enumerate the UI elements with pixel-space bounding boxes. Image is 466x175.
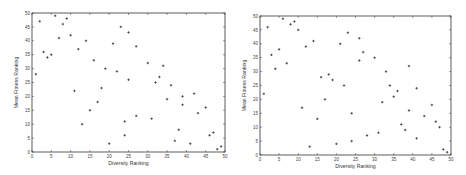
data-point: [358, 37, 360, 39]
y-tick-label: 15: [25, 108, 31, 113]
y-tick-label: 35: [25, 52, 31, 57]
data-point: [54, 15, 56, 17]
data-point: [435, 120, 437, 122]
x-tick-label: 50: [222, 154, 228, 159]
x-tick-label: 30: [372, 157, 378, 162]
x-tick-label: 25: [353, 157, 359, 162]
x-axis-title: Diversity Ranking: [108, 160, 148, 166]
y-tick-label: 20: [253, 97, 259, 102]
data-point: [39, 20, 41, 22]
data-point: [343, 84, 345, 86]
x-tick-label: 25: [126, 154, 132, 159]
data-point: [438, 126, 440, 128]
data-point: [96, 101, 98, 103]
data-point: [85, 40, 87, 42]
data-point: [58, 37, 60, 39]
data-point: [208, 134, 210, 136]
data-point: [166, 98, 168, 100]
data-point: [189, 142, 191, 144]
x-tick-label: 35: [391, 157, 397, 162]
x-tick-label: 15: [87, 154, 93, 159]
data-point: [120, 26, 122, 28]
data-point: [415, 87, 417, 89]
data-point: [100, 87, 102, 89]
y-axis-title: Mean Fitness Ranking: [241, 60, 247, 112]
data-point: [377, 132, 379, 134]
scatter-chart-left: 0510152025303540455005101520253035404550…: [0, 0, 233, 175]
data-point: [350, 140, 352, 142]
data-point: [104, 67, 106, 69]
x-tick-label: 20: [107, 154, 113, 159]
data-point: [335, 143, 337, 145]
data-point: [423, 115, 425, 117]
data-point: [308, 145, 310, 147]
x-tick-label: 10: [296, 157, 302, 162]
y-tick-label: 10: [253, 125, 259, 130]
data-point: [362, 51, 364, 53]
data-point: [339, 43, 341, 45]
data-point: [404, 129, 406, 131]
data-point: [127, 79, 129, 81]
y-tick-label: 25: [253, 83, 259, 88]
x-tick-label: 0: [31, 154, 34, 159]
data-point: [286, 62, 288, 64]
chart-canvas-right: 0510152025303540455005101520253035404550…: [233, 0, 466, 175]
data-point: [278, 48, 280, 50]
x-tick-label: 45: [429, 157, 435, 162]
x-tick-label: 40: [184, 154, 190, 159]
x-tick-label: 20: [334, 157, 340, 162]
y-tick-label: 40: [25, 38, 31, 43]
data-point: [442, 148, 444, 150]
data-point: [347, 31, 349, 33]
plot-frame: [260, 16, 451, 155]
data-point: [431, 104, 433, 106]
data-point: [205, 106, 207, 108]
data-point: [50, 54, 52, 56]
chart-canvas-left: 0510152025303540455005101520253035404550…: [0, 0, 233, 175]
data-point: [212, 131, 214, 133]
data-point: [263, 93, 265, 95]
x-tick-label: 5: [50, 154, 53, 159]
data-point: [350, 112, 352, 114]
x-tick-label: 10: [68, 154, 74, 159]
data-point: [220, 145, 222, 147]
data-point: [170, 84, 172, 86]
plot-frame: [32, 13, 225, 152]
data-point: [385, 70, 387, 72]
data-point: [181, 104, 183, 106]
data-point: [154, 81, 156, 83]
data-point: [46, 56, 48, 58]
data-point: [446, 151, 448, 153]
y-tick-label: 30: [25, 66, 31, 71]
y-tick-label: 25: [25, 80, 31, 85]
data-point: [282, 18, 284, 20]
data-point: [35, 73, 37, 75]
x-tick-label: 30: [145, 154, 151, 159]
data-point: [305, 45, 307, 47]
y-tick-label: 50: [253, 14, 259, 19]
data-point: [108, 142, 110, 144]
x-tick-label: 35: [165, 154, 171, 159]
data-point: [373, 57, 375, 59]
data-point: [216, 148, 218, 150]
x-tick-label: 0: [259, 157, 262, 162]
data-point: [415, 137, 417, 139]
y-tick-label: 50: [25, 11, 31, 16]
data-point: [270, 54, 272, 56]
y-tick-label: 20: [25, 94, 31, 99]
scatter-chart-right: 0510152025303540455005101520253035404550…: [233, 0, 466, 175]
data-point: [127, 31, 129, 33]
data-point: [393, 95, 395, 97]
data-point: [266, 26, 268, 28]
data-point: [174, 140, 176, 142]
data-point: [116, 70, 118, 72]
data-point: [408, 65, 410, 67]
data-point: [193, 92, 195, 94]
data-point: [301, 107, 303, 109]
data-point: [312, 40, 314, 42]
y-tick-label: 15: [253, 111, 259, 116]
data-point: [62, 23, 64, 25]
y-axis-title: Mean Fitness Ranking: [13, 57, 19, 109]
x-tick-label: 15: [315, 157, 321, 162]
x-tick-label: 50: [448, 157, 454, 162]
